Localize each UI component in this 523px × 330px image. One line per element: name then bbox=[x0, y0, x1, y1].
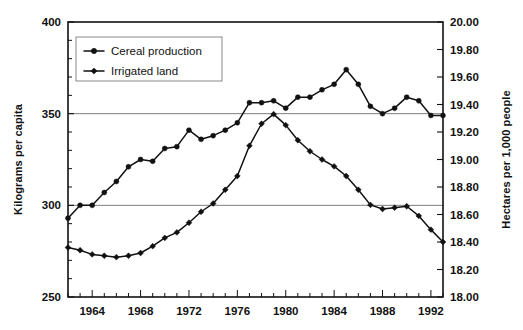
y-axis-right-tick-label: 19.60 bbox=[450, 71, 479, 83]
data-point-marker bbox=[416, 98, 421, 103]
y-axis-major-ticks-left bbox=[68, 22, 74, 297]
data-point-marker bbox=[344, 67, 349, 72]
data-point-marker bbox=[380, 111, 385, 116]
data-point-marker bbox=[283, 106, 288, 111]
y-axis-left-title: Kilograms per capita bbox=[12, 103, 24, 215]
data-point-marker bbox=[138, 250, 144, 256]
data-point-marker bbox=[247, 143, 253, 149]
x-axis-ticks bbox=[68, 290, 443, 297]
y-axis-right-tick-label: 19.80 bbox=[450, 44, 479, 56]
legend-label: Cereal production bbox=[111, 45, 202, 57]
data-point-marker bbox=[211, 133, 216, 138]
x-axis-tick-labels: 19641968197219761980198419881992 bbox=[79, 305, 443, 317]
data-point-marker bbox=[77, 247, 83, 253]
y-axis-right-tick-label: 18.40 bbox=[450, 236, 479, 248]
data-point-marker bbox=[392, 106, 397, 111]
data-point-marker bbox=[126, 164, 131, 169]
gridlines bbox=[68, 114, 443, 206]
data-point-marker bbox=[235, 120, 240, 125]
y-axis-right-tick-label: 19.20 bbox=[450, 126, 479, 138]
data-point-marker bbox=[65, 245, 71, 251]
chart-svg: 250300350400 18.0018.2018.4018.6018.8019… bbox=[0, 0, 523, 330]
x-axis-tick-label: 1972 bbox=[176, 305, 202, 317]
legend-label: Irrigated land bbox=[111, 65, 178, 77]
data-point-marker bbox=[320, 87, 325, 92]
y-axis-right-tick-label: 19.40 bbox=[450, 99, 479, 111]
y-axis-right-tick-label: 18.20 bbox=[450, 264, 479, 276]
y-axis-left-tick-label: 250 bbox=[42, 291, 61, 303]
data-point-marker bbox=[113, 254, 119, 260]
y-axis-right-title: Hectares per 1,000 people bbox=[500, 90, 512, 228]
x-axis-tick-label: 1992 bbox=[418, 305, 444, 317]
data-point-marker bbox=[90, 203, 95, 208]
y-axis-right-tick-label: 20.00 bbox=[450, 16, 479, 28]
data-point-marker bbox=[441, 113, 446, 118]
data-point-marker bbox=[186, 128, 191, 133]
data-point-marker bbox=[199, 137, 204, 142]
data-point-marker bbox=[307, 95, 312, 100]
x-axis-tick-label: 1984 bbox=[321, 305, 347, 317]
data-point-marker bbox=[404, 95, 409, 100]
data-point-marker bbox=[295, 95, 300, 100]
data-point-marker bbox=[150, 159, 155, 164]
x-axis-tick-label: 1964 bbox=[79, 305, 105, 317]
y-axis-left-tick-label: 300 bbox=[42, 199, 61, 211]
data-point-marker bbox=[223, 128, 228, 133]
data-point-marker bbox=[271, 98, 276, 103]
data-point-marker bbox=[101, 253, 107, 259]
y-axis-right-tick-label: 18.80 bbox=[450, 181, 479, 193]
data-point-marker bbox=[162, 146, 167, 151]
data-point-marker bbox=[114, 179, 119, 184]
data-point-marker bbox=[174, 144, 179, 149]
x-axis-tick-label: 1988 bbox=[370, 305, 396, 317]
y-axis-left-tick-label: 400 bbox=[42, 16, 61, 28]
data-point-marker bbox=[91, 48, 96, 53]
chart-figure: 250300350400 18.0018.2018.4018.6018.8019… bbox=[0, 0, 523, 330]
data-point-marker bbox=[138, 157, 143, 162]
data-point-marker bbox=[380, 206, 386, 212]
series-1 bbox=[66, 67, 446, 220]
data-point-marker bbox=[259, 100, 264, 105]
y-axis-ticks-right bbox=[437, 22, 443, 297]
data-point-marker bbox=[126, 253, 132, 259]
data-point-marker bbox=[66, 216, 71, 221]
series-2 bbox=[65, 111, 446, 260]
y-axis-right-tick-label: 18.60 bbox=[450, 209, 479, 221]
x-axis-tick-label: 1980 bbox=[273, 305, 299, 317]
data-point-marker bbox=[368, 104, 373, 109]
chart-legend: Cereal productionIrrigated land bbox=[76, 37, 222, 81]
y-axis-left-tick-labels: 250300350400 bbox=[42, 16, 61, 303]
data-point-marker bbox=[78, 203, 83, 208]
series-layer bbox=[65, 67, 446, 260]
y-axis-left-tick-label: 350 bbox=[42, 108, 61, 120]
y-axis-right-tick-labels: 18.0018.2018.4018.6018.8019.0019.2019.40… bbox=[450, 16, 479, 303]
x-axis-tick-label: 1968 bbox=[128, 305, 154, 317]
data-point-marker bbox=[102, 190, 107, 195]
data-point-marker bbox=[332, 82, 337, 87]
data-point-marker bbox=[356, 82, 361, 87]
data-point-marker bbox=[89, 251, 95, 257]
data-point-marker bbox=[428, 113, 433, 118]
y-axis-right-tick-label: 18.00 bbox=[450, 291, 479, 303]
y-axis-right-tick-label: 19.00 bbox=[450, 154, 479, 166]
data-point-marker bbox=[247, 100, 252, 105]
series-line bbox=[68, 70, 443, 219]
series-line bbox=[68, 114, 443, 257]
x-axis-tick-label: 1976 bbox=[225, 305, 251, 317]
